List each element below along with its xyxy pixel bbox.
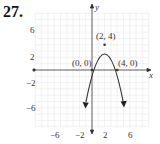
y-tick-neg2: −2 xyxy=(26,78,36,88)
y-axis-arrow-up-icon xyxy=(90,4,93,8)
x-tick-2: 2 xyxy=(103,130,108,140)
curve-arrow-left-icon xyxy=(83,102,89,109)
x-tick-neg6: −6 xyxy=(50,130,60,140)
y-tick-neg6: −6 xyxy=(26,103,36,113)
intercept-point xyxy=(116,69,119,72)
origin-point xyxy=(91,69,94,72)
intercept-label: (4, 0) xyxy=(118,58,138,68)
y-axis-label: y xyxy=(94,2,99,12)
x-axis-left-end xyxy=(33,69,35,71)
origin-label: (0, 0) xyxy=(72,58,92,68)
vertex-label: (2, 4) xyxy=(96,31,116,41)
x-axis-label: x xyxy=(148,70,153,80)
x-tick-neg2: −2 xyxy=(75,130,85,140)
parabola-chart: y x 6 2 −2 −6 −6 −2 2 6 (2, 4) (0, 0) (4… xyxy=(0,0,160,144)
y-tick-6: 6 xyxy=(30,25,35,35)
y-axis-arrow-down-icon xyxy=(90,130,93,134)
y-tick-2: 2 xyxy=(30,52,35,62)
curve-arrow-right-icon xyxy=(121,101,127,108)
x-tick-6: 6 xyxy=(128,130,133,140)
vertex-point xyxy=(103,44,106,47)
